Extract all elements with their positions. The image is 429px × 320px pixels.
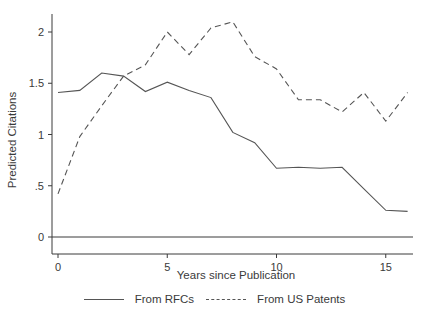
y-axis-title: Predicted Citations: [6, 91, 18, 188]
dashed-line-swatch-icon: [206, 299, 246, 300]
legend-label: From RFCs: [135, 293, 194, 305]
y-axis: 0.511.52: [29, 14, 52, 254]
y-tick-label: 1.5: [29, 77, 44, 89]
legend-label: From US Patents: [257, 293, 345, 305]
legend-item-rfcs: From RFCs: [84, 293, 194, 305]
solid-line-swatch-icon: [84, 299, 124, 300]
x-tick-label: 5: [164, 261, 170, 273]
y-tick-label: 2: [38, 26, 44, 38]
x-axis-title: Years since Publication: [177, 269, 295, 281]
line-chart: 0.511.52 051015 Predicted Citations Year…: [0, 0, 429, 320]
y-tick-label: .5: [35, 180, 44, 192]
x-tick-label: 15: [380, 261, 392, 273]
y-tick-label: 0: [38, 231, 44, 243]
series-line-us-patents: [58, 22, 408, 194]
series-group: [58, 22, 408, 212]
y-tick-label: 1: [38, 129, 44, 141]
x-tick-label: 0: [55, 261, 61, 273]
legend: From RFCs From US Patents: [0, 291, 429, 307]
legend-item-us-patents: From US Patents: [206, 293, 345, 305]
